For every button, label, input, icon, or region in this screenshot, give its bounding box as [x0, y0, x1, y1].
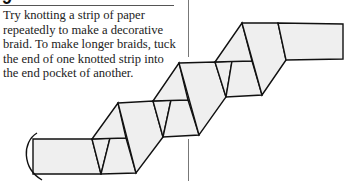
- braid-diagram: [0, 0, 358, 194]
- strip-left-end: [33, 139, 101, 174]
- strip-right-end: [278, 23, 343, 60]
- page: 9 Try knotting a strip of paper repeated…: [0, 0, 358, 194]
